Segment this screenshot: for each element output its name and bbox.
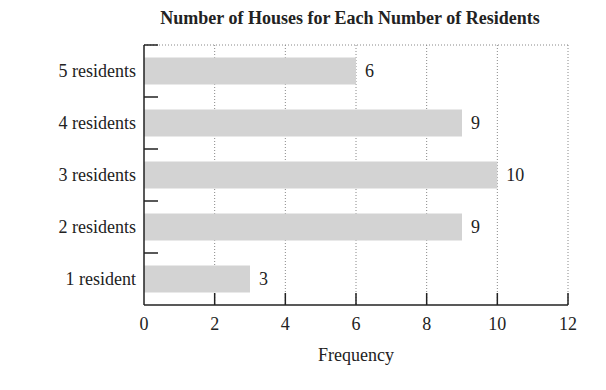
x-tick-label: 0	[140, 314, 149, 334]
x-tick-label: 6	[352, 314, 361, 334]
bar	[144, 266, 250, 293]
bars: 691093	[144, 58, 524, 293]
bar	[144, 162, 497, 189]
bar	[144, 58, 356, 85]
category-label: 3 residents	[59, 165, 136, 185]
x-tick-label: 8	[422, 314, 431, 334]
category-label: 2 residents	[59, 217, 136, 237]
x-tick-label: 12	[559, 314, 577, 334]
y-category-labels: 5 residents4 residents3 residents2 resid…	[59, 61, 136, 289]
x-tick-label: 10	[488, 314, 506, 334]
bar	[144, 110, 462, 137]
data-label: 9	[471, 113, 480, 133]
x-tick-label: 4	[281, 314, 290, 334]
data-label: 6	[365, 61, 374, 81]
category-label: 5 residents	[59, 61, 136, 81]
data-label: 9	[471, 217, 480, 237]
data-label: 3	[259, 269, 268, 289]
category-label: 4 residents	[59, 113, 136, 133]
chart-title: Number of Houses for Each Number of Resi…	[160, 8, 540, 28]
category-label: 1 resident	[66, 269, 136, 289]
x-axis-label: Frequency	[318, 345, 394, 365]
x-tick-label: 2	[210, 314, 219, 334]
x-tick-labels: 024681012	[140, 314, 578, 334]
data-label: 10	[506, 165, 524, 185]
bar	[144, 214, 462, 241]
bar-chart: Number of Houses for Each Number of Resi…	[0, 0, 606, 390]
